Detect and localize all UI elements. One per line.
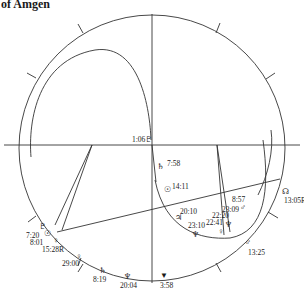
neptune-icon-2: ♆ <box>225 221 232 229</box>
planet-label-venus: 22:41 <box>206 219 223 227</box>
planet-label-mars-2: 13:25 <box>248 249 265 257</box>
planet-label-neptune-3: 20:04 <box>120 282 137 290</box>
neptune-icon: ♆ <box>192 231 199 239</box>
pluto-icon: ♇ <box>145 136 152 144</box>
planet-label-vesta: 3:58 <box>160 282 173 290</box>
planet-label-venus-2: 29:00 <box>62 260 79 268</box>
vesta-icon: ▼ <box>160 272 168 280</box>
planet-label-saturn: 7:58 <box>167 160 180 168</box>
sun-icon: ☉ <box>164 186 171 194</box>
planet-label-saturn-2: 8:19 <box>93 276 106 284</box>
planet-label-sun: 14:11 <box>172 183 189 191</box>
node-icon: ☊ <box>282 188 289 196</box>
planet-label-node: 13:05R <box>284 197 304 205</box>
planet-label-venus-3: 15:28R <box>42 246 64 254</box>
planet-label-neptune-2: 23:09 <box>222 206 239 214</box>
sun-icon-2: ☉ <box>44 230 51 238</box>
venus-icon: ♀ <box>218 228 224 236</box>
mars-icon-2: ♂ <box>245 239 251 247</box>
saturn-icon: ♄ <box>157 163 164 171</box>
planet-label-neptune-1: 23:10 <box>188 222 205 230</box>
neptune-icon-3: ♆ <box>124 273 131 281</box>
venus-icon-3: ♀ <box>53 237 59 245</box>
planet-label-pluto-top: 1:06 <box>132 136 145 144</box>
saturn-icon-2: ♄ <box>99 267 106 275</box>
planet-label-jupiter: 20:10 <box>180 208 197 216</box>
mars-icon: ♂ <box>240 204 246 212</box>
